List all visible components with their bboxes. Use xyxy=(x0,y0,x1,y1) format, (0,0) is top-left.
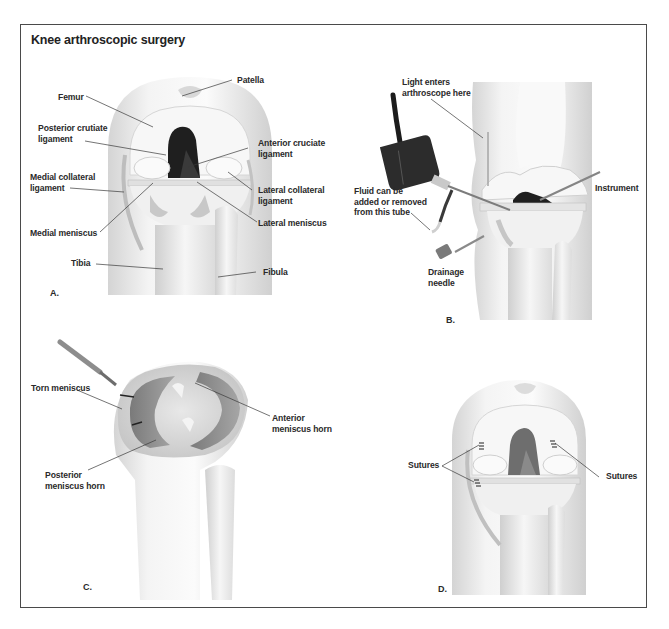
label-medial-meniscus: Medial meniscus xyxy=(30,228,97,239)
label-lateral-meniscus: Lateral meniscus xyxy=(258,218,327,229)
knee-illustrations xyxy=(0,0,669,629)
label-torn-meniscus: Torn meniscus xyxy=(31,383,90,394)
label-instrument: Instrument xyxy=(595,183,638,194)
label-medial-collateral-ligament: Medial collateral ligament xyxy=(30,172,95,193)
label-posterior-cruciate-ligament: Posterior crutiate ligament xyxy=(38,123,107,144)
label-fluid-tube: Fluid can be added or removed from this … xyxy=(354,186,427,218)
label-femur: Femur xyxy=(58,92,84,103)
panel-d-sutured-knee xyxy=(452,380,586,595)
label-drainage-needle: Drainage needle xyxy=(428,267,464,288)
label-anterior-cruciate-ligament: Anterior cruciate ligament xyxy=(258,138,325,159)
panel-letter-b: B. xyxy=(446,315,455,325)
label-fibula: Fibula xyxy=(263,267,288,278)
label-posterior-meniscus-horn: Posterior meniscus horn xyxy=(45,470,105,491)
label-sutures-right: Sutures xyxy=(606,471,637,482)
panel-a-knee-front xyxy=(108,77,272,295)
panel-letter-a: A. xyxy=(50,288,59,298)
panel-letter-c: C. xyxy=(83,582,92,592)
label-tibia: Tibia xyxy=(71,258,90,269)
panel-letter-d: D. xyxy=(438,584,447,594)
label-lateral-collateral-ligament: Lateral collateral ligament xyxy=(258,185,325,206)
label-sutures-left: Sutures xyxy=(408,460,439,471)
label-patella: Patella xyxy=(237,75,264,86)
label-anterior-meniscus-horn: Anterior meniscus horn xyxy=(272,413,332,434)
label-light-enters-arthroscope: Light enters arthroscope here xyxy=(402,77,471,98)
